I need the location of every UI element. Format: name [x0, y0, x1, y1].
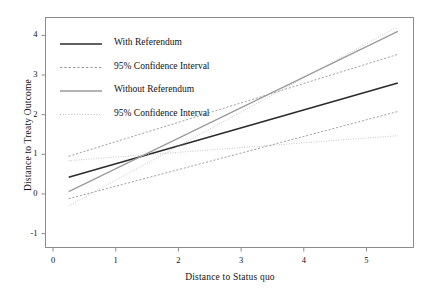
x-tick-label: 5 [356, 255, 376, 265]
legend-entry-label: Without Referendum [114, 84, 194, 94]
chart-figure: Distance to Treaty Outcome Distance to S… [0, 0, 426, 292]
x-tick-label: 2 [168, 255, 188, 265]
plot-canvas [0, 0, 426, 292]
y-tick-label: 4 [24, 29, 38, 39]
x-tick-label: 4 [294, 255, 314, 265]
legend-entry-label: 95% Confidence Interval [114, 61, 210, 71]
y-tick-label: 2 [24, 109, 38, 119]
y-tick-label: 3 [24, 69, 38, 79]
x-tick-label: 3 [231, 255, 251, 265]
x-axis-ticks [53, 248, 366, 252]
y-tick-label: -1 [24, 228, 38, 238]
y-axis-ticks [42, 35, 46, 233]
legend-entry-label: 95% Confidence Interval [114, 108, 210, 118]
x-tick-label: 1 [106, 255, 126, 265]
x-tick-label: 0 [43, 255, 63, 265]
y-tick-label: 1 [24, 148, 38, 158]
legend-entry-label: With Referendum [114, 37, 182, 47]
y-tick-label: 0 [24, 188, 38, 198]
x-axis-title: Distance to Status quo [46, 272, 414, 282]
plot-frame [46, 18, 414, 248]
